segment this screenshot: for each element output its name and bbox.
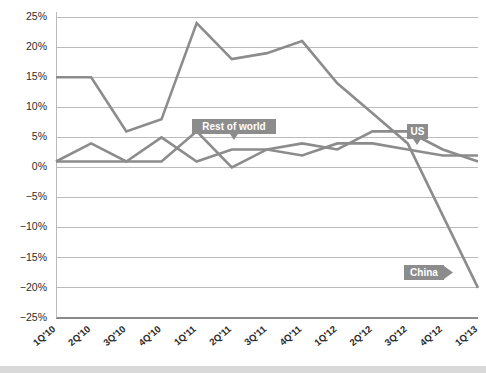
y-tick-label: −5% [26, 190, 47, 202]
y-tick-label: 20% [26, 40, 47, 52]
y-tick-label: −25% [20, 311, 47, 323]
chart-container: 25%20%15%10%5%0%−5%−10%−15%−20%−25% 1Q'1… [0, 0, 486, 373]
y-tick-label: 5% [32, 130, 47, 142]
y-tick-label: 25% [26, 10, 47, 22]
y-tick-label: 0% [32, 160, 47, 172]
annotation-label: US [411, 126, 425, 137]
footer-bar [0, 366, 486, 373]
annotation-label: Rest of world [202, 121, 265, 132]
y-tick-label: −20% [20, 281, 47, 293]
y-tick-label: −15% [20, 251, 47, 263]
annotation-china: China [404, 265, 453, 280]
y-tick-label: 15% [26, 70, 47, 82]
y-tick-label: 10% [26, 100, 47, 112]
y-tick-label: −10% [20, 220, 47, 232]
annotation-label: China [410, 267, 438, 278]
line-chart: 25%20%15%10%5%0%−5%−10%−15%−20%−25% 1Q'1… [0, 0, 486, 373]
